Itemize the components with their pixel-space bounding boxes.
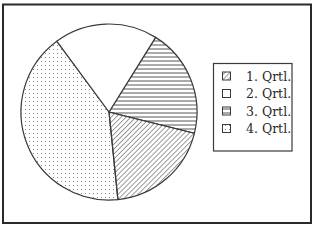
legend-label: 3. Qrtl. [246,104,291,119]
legend: 1. Qrtl. 2. Qrtl. 3. Qrtl. 4. Qrtl. [214,64,293,152]
diagonal-hatch-swatch-icon [223,72,231,80]
legend-label: 4. Qrtl. [246,121,291,136]
pie-chart [21,24,197,200]
dots-swatch-icon [223,125,231,133]
legend-label: 1. Qrtl. [246,69,291,84]
horizontal-stripes-swatch-icon [223,107,231,115]
chart-canvas: 1. Qrtl. 2. Qrtl. 3. Qrtl. 4. Qrtl. [0,0,318,228]
legend-label: 2. Qrtl. [246,86,291,101]
blank-swatch-icon [223,90,231,98]
